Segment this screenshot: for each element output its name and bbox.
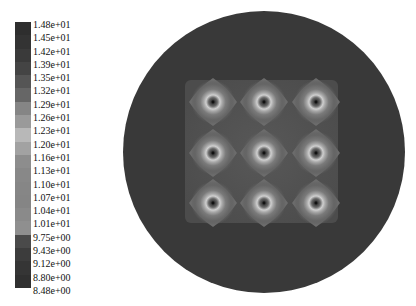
contour-plot [0,0,416,306]
hotspot-core [212,152,215,155]
hotspot-core [212,202,215,205]
hotspot-core [315,152,318,155]
hotspot-core [315,202,318,205]
hotspot-core [315,101,318,104]
hotspot-core [263,152,266,155]
hotspot-core [212,101,215,104]
hotspot-core [263,202,266,205]
hotspots [191,80,338,225]
hotspot-core [263,101,266,104]
